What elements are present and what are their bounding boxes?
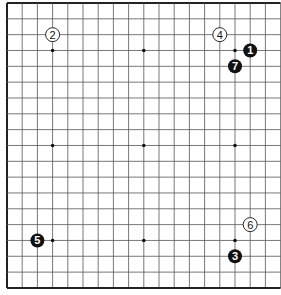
- move-number: 2: [50, 29, 56, 41]
- move-number: 1: [247, 44, 253, 56]
- black-stone-1: 1: [243, 43, 257, 57]
- white-stone-4: 4: [213, 28, 227, 42]
- star-point: [233, 49, 237, 53]
- move-number: 5: [34, 234, 40, 246]
- move-number: 4: [217, 29, 223, 41]
- star-point: [142, 144, 146, 148]
- black-stone-5: 5: [30, 233, 44, 247]
- move-number: 6: [247, 219, 253, 231]
- go-board: 1234567: [0, 0, 281, 295]
- black-stone-7: 7: [228, 59, 242, 73]
- white-stone-2: 2: [46, 28, 60, 42]
- black-stone-3: 3: [228, 249, 242, 263]
- star-point: [51, 144, 55, 148]
- star-point: [51, 239, 55, 243]
- white-stone-6: 6: [243, 218, 257, 232]
- star-point: [142, 49, 146, 53]
- star-point: [233, 239, 237, 243]
- star-point: [51, 49, 55, 53]
- move-number: 7: [232, 60, 238, 72]
- star-point: [233, 144, 237, 148]
- move-number: 3: [232, 250, 238, 262]
- star-point: [142, 239, 146, 243]
